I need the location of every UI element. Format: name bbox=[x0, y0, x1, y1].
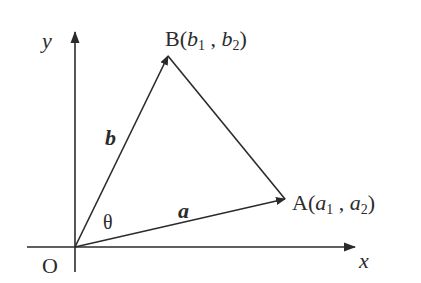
point-B-name: B bbox=[165, 26, 180, 51]
vector-a-label: a bbox=[178, 198, 189, 223]
point-A-name: A bbox=[292, 190, 308, 215]
y-axis-label: y bbox=[40, 28, 52, 53]
segment-AB bbox=[168, 56, 285, 199]
angle-theta-label: θ bbox=[103, 211, 113, 233]
origin-label: O bbox=[42, 253, 58, 278]
point-B-label: B(b1 , b2) bbox=[165, 26, 247, 53]
x-axis-label: x bbox=[358, 248, 369, 273]
vector-diagram: y x O B(b1 , b2) A(a1 , a2) b a θ bbox=[0, 0, 421, 283]
point-A-label: A(a1 , a2) bbox=[292, 190, 375, 217]
vector-b bbox=[75, 56, 168, 247]
vector-b-label: b bbox=[105, 125, 116, 150]
